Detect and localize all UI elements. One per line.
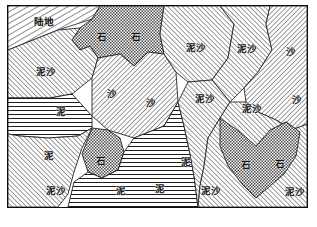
- label-sand-center-left: 沙: [107, 89, 117, 99]
- label-mud-bottom-center: 泥: [116, 186, 126, 196]
- label-mud-bottom-right: 泥: [155, 184, 165, 194]
- label-rock-top-b: 石: [131, 32, 141, 42]
- sediment-map: [8, 6, 307, 207]
- label-mudsand-left-upper: 泥沙: [36, 67, 56, 77]
- label-mudsand-bottom-left: 泥沙: [46, 186, 66, 196]
- label-mudsand-top-b: 泥沙: [237, 44, 257, 54]
- label-rock-bottom-b: 石: [275, 159, 285, 169]
- label-sand-center: 沙: [146, 98, 156, 108]
- map-frame: 陆地 石 石 泥沙 泥沙 沙 泥沙 沙 沙 泥沙 泥沙 沙 泥 泥 石 泥 泥 …: [7, 5, 308, 208]
- label-mudsand-bottom-mid: 泥沙: [201, 186, 221, 196]
- label-mud-right-edge: 泥: [181, 157, 191, 167]
- label-mudsand-top-a: 泥沙: [186, 43, 206, 53]
- label-rock-bottom-a: 石: [241, 160, 251, 170]
- label-rock-top-a: 石: [97, 32, 107, 42]
- label-sand-right-mid: 沙: [292, 95, 302, 105]
- label-sand-top-right: 沙: [286, 47, 296, 57]
- label-mud-left-upper: 泥: [56, 107, 66, 117]
- label-mudsand-bottom-rt: 泥沙: [285, 187, 305, 197]
- figure-canvas: 陆地 石 石 泥沙 泥沙 沙 泥沙 沙 沙 泥沙 泥沙 沙 泥 泥 石 泥 泥 …: [0, 0, 317, 227]
- label-mudsand-mid: 泥沙: [195, 94, 215, 104]
- label-land-top-left: 陆地: [34, 17, 54, 27]
- label-mudsand-mid-right: 泥沙: [242, 104, 262, 114]
- label-mud-left-lower: 泥: [44, 151, 54, 161]
- label-rock-mid-left: 石: [96, 156, 106, 166]
